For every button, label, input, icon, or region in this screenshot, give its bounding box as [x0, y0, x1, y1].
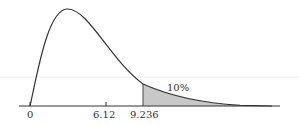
- shaded-tail-region: [143, 84, 272, 106]
- tick-label-6-12: 6.12: [93, 110, 115, 120]
- tick-label-9-236: 9.236: [130, 110, 159, 120]
- chi-square-chart: 0 6.12 9.236 10%: [0, 0, 299, 125]
- chart-svg: [0, 0, 299, 125]
- tick-label-0: 0: [27, 110, 33, 120]
- area-percent-label: 10%: [167, 83, 189, 93]
